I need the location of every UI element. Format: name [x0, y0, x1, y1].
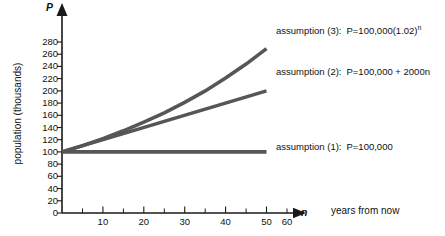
annotation-assumption-1: assumption (1):P=100,000: [276, 141, 393, 152]
x-tick-label: 10: [98, 216, 109, 227]
x-tick-label: 30: [179, 216, 190, 227]
y-axis-symbol: P: [46, 1, 53, 13]
annotation-assumption-3: assumption (3):P=100,000(1.02)n: [276, 24, 421, 36]
population-growth-chart: 280 260 240 220 200 180 160 140 120 100 …: [0, 0, 445, 236]
annotation-label-3: assumption (3):: [276, 25, 341, 36]
annotation-formula-3-base: P=100,000(1.02): [346, 25, 417, 36]
x-axis-symbol: n: [301, 206, 307, 218]
x-tick-label: 60: [282, 216, 293, 227]
annotation-formula-3-exponent: n: [418, 24, 422, 31]
y-axis-title: population (thousands): [12, 39, 23, 189]
x-axis-title: years from now: [331, 205, 399, 216]
x-tick-label: 50: [261, 216, 272, 227]
x-tick-label: 40: [220, 216, 231, 227]
annotation-assumption-2: assumption (2):P=100,000 + 2000n: [276, 66, 430, 77]
x-tick-label: 20: [139, 216, 150, 227]
annotation-formula-1: P=100,000: [346, 141, 392, 152]
annotation-label-1: assumption (1):: [276, 141, 341, 152]
annotation-label-2: assumption (2):: [276, 66, 341, 77]
annotation-formula-2: P=100,000 + 2000n: [346, 66, 429, 77]
